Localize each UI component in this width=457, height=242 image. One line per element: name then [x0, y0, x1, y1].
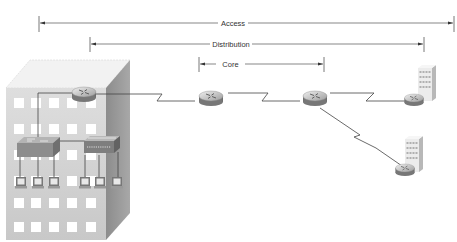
- switch-2: [84, 136, 120, 153]
- wan-links: [90, 93, 407, 168]
- arrow-left-icon: [91, 43, 96, 46]
- pc-icon: [15, 177, 27, 189]
- router-icon: [395, 164, 414, 176]
- building-router-icon: [72, 87, 96, 102]
- span-access: Access: [39, 16, 454, 32]
- pc-icon: [79, 177, 91, 189]
- arrow-left-icon: [200, 63, 205, 66]
- span-label-distribution: Distribution: [212, 40, 250, 49]
- span-core: Core: [199, 57, 324, 72]
- core-router-2-icon: [303, 91, 327, 106]
- pc-icon: [32, 177, 44, 189]
- span-distribution: Distribution: [90, 37, 424, 52]
- switch-1: [17, 137, 60, 157]
- router-icon: [404, 94, 423, 106]
- arrow-right-icon: [318, 63, 323, 66]
- link-core2-remote1: [330, 93, 407, 101]
- arrow-right-icon: [448, 22, 453, 25]
- pc-icon: [94, 177, 106, 189]
- span-label-access: Access: [221, 19, 245, 28]
- arrow-right-icon: [418, 43, 423, 46]
- remote-site-1: [404, 65, 436, 106]
- pc-icon: [111, 177, 123, 189]
- pc-icon: [48, 177, 60, 189]
- arrow-left-icon: [40, 22, 45, 25]
- remote-site-2: [395, 136, 423, 176]
- link-core1-core2: [228, 93, 300, 101]
- core-router-1-icon: [199, 91, 223, 106]
- link-core2-remote2: [320, 108, 405, 168]
- network-diagram: Access Distribution Core: [0, 0, 457, 242]
- span-label-core: Core: [222, 60, 238, 69]
